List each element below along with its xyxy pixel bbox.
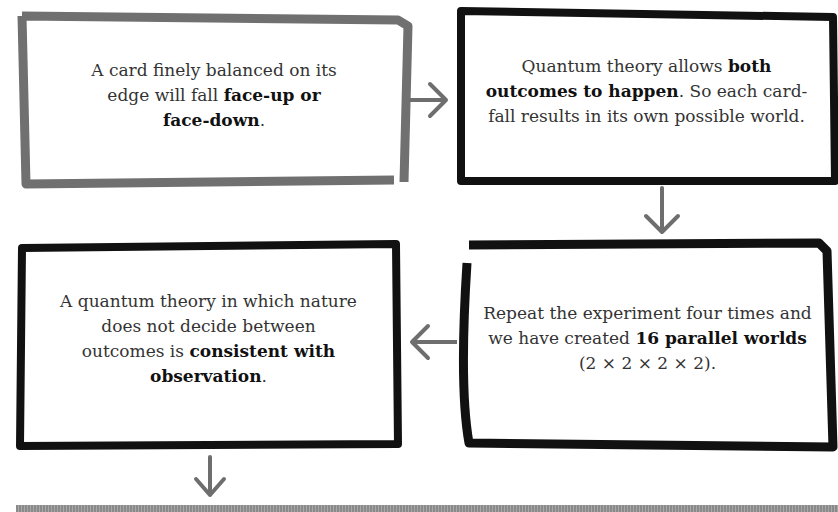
text-plain: . [260,110,265,130]
step-box-both-outcomes: Quantum theory allows both outcomes to h… [455,5,838,185]
text-plain: Quantum theory allows [522,56,728,76]
text-emphasis: 16 parallel worlds [635,328,806,348]
arrow-left-icon [408,320,460,364]
step-text-both-outcomes: Quantum theory allows both outcomes to h… [482,54,812,129]
text-plain: (2 × 2 × 2 × 2). [579,353,716,373]
step-box-card-balance: A card finely balanced on its edge will … [18,12,410,186]
text-plain: . [262,366,267,386]
arrow-right-icon [408,78,450,122]
step-text-parallel-worlds: Repeat the experiment four times and we … [483,301,813,376]
arrow-down-icon [188,455,232,499]
next-box-top-edge [16,505,838,512]
arrow-down-icon [640,186,684,236]
step-text-consistent-observation: A quantum theory in which nature does no… [59,289,359,389]
step-box-parallel-worlds: Repeat the experiment four times and we … [457,237,838,452]
step-box-consistent-observation: A quantum theory in which nature does no… [16,240,401,452]
step-text-card-balance: A card finely balanced on its edge will … [84,58,344,133]
